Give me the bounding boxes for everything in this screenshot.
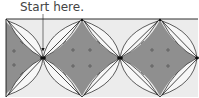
stitch-pattern-diagram bbox=[0, 0, 199, 98]
